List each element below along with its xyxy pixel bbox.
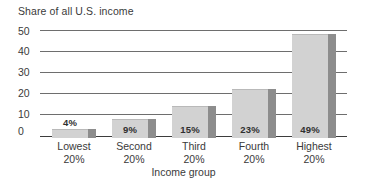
- bar-body-lowest-20: [52, 129, 88, 138]
- bar-body-highest-20: [292, 34, 328, 138]
- bar-edge-fourth-20: [268, 89, 276, 138]
- x-axis-title: Income group: [0, 166, 367, 178]
- bar-value-third-20: 15%: [172, 124, 208, 135]
- bar-edge-second-20: [148, 119, 156, 138]
- bar-value-fourth-20: 23%: [232, 124, 268, 135]
- bar-lowest-20[interactable]: 4%: [52, 129, 96, 138]
- chart-figure: Share of all U.S. income 50 40 30 20 10 …: [0, 0, 367, 187]
- x-label-third-20-line1: Third: [166, 140, 222, 153]
- x-label-highest-20-line1: Highest: [286, 140, 342, 153]
- x-label-lowest-20: Lowest 20%: [46, 140, 102, 165]
- chart-title: Share of all U.S. income: [18, 5, 134, 17]
- x-label-highest-20: Highest 20%: [286, 140, 342, 165]
- bar-value-highest-20: 49%: [292, 124, 328, 135]
- x-label-third-20-line2: 20%: [166, 153, 222, 166]
- bar-series: 4% 9% 15% 23% 49%: [40, 30, 347, 138]
- x-label-fourth-20-line1: Fourth: [226, 140, 282, 153]
- x-label-fourth-20-line2: 20%: [226, 153, 282, 166]
- bar-edge-highest-20: [328, 34, 336, 138]
- bar-edge-third-20: [208, 106, 216, 138]
- y-tick-label-0: 0: [18, 126, 38, 137]
- bar-value-second-20: 9%: [112, 124, 148, 135]
- x-label-fourth-20: Fourth 20%: [226, 140, 282, 165]
- x-label-lowest-20-line1: Lowest: [46, 140, 102, 153]
- x-label-second-20-line2: 20%: [106, 153, 162, 166]
- x-label-second-20: Second 20%: [106, 140, 162, 165]
- y-tick-label-50: 50: [18, 26, 38, 37]
- y-tick-label-40: 40: [18, 46, 38, 57]
- bar-edge-lowest-20: [88, 129, 96, 138]
- y-tick-label-10: 10: [18, 109, 38, 120]
- bar-third-20[interactable]: 15%: [172, 106, 216, 138]
- bar-value-lowest-20: 4%: [52, 117, 88, 128]
- y-tick-label-30: 30: [18, 67, 38, 78]
- bar-highest-20[interactable]: 49%: [292, 34, 336, 138]
- x-axis-category-labels: Lowest 20% Second 20% Third 20% Fourth 2…: [40, 140, 347, 168]
- x-label-second-20-line1: Second: [106, 140, 162, 153]
- y-tick-label-20: 20: [18, 88, 38, 99]
- x-label-lowest-20-line2: 20%: [46, 153, 102, 166]
- x-label-highest-20-line2: 20%: [286, 153, 342, 166]
- bar-fourth-20[interactable]: 23%: [232, 89, 276, 138]
- bar-second-20[interactable]: 9%: [112, 119, 156, 138]
- x-label-third-20: Third 20%: [166, 140, 222, 165]
